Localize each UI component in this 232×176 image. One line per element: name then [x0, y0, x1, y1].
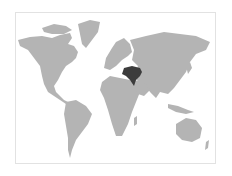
madagascar — [134, 116, 137, 126]
greenland — [78, 20, 100, 48]
australia — [176, 118, 202, 142]
land-masses — [18, 20, 210, 158]
indonesia — [168, 104, 194, 114]
europe — [104, 38, 132, 70]
north-america — [18, 33, 78, 104]
world-map — [0, 0, 232, 176]
arctic-islands — [42, 24, 72, 34]
south-america — [64, 100, 92, 158]
new-zealand — [205, 140, 209, 150]
